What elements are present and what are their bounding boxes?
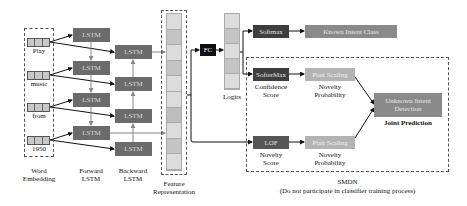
backward-lstm-cell: LSTM [115,45,152,59]
backward-lstm-cell: LSTM [115,109,152,123]
vector-cell [225,14,239,29]
vector-cell [167,14,181,30]
vector-cell [167,139,181,155]
vector-cell [167,30,181,46]
feature-representation-label: FeatureRepresentation [144,180,204,196]
confidence-score-label: ConfidenceScore [246,83,296,99]
forward-lstm-cell: LSTM [73,28,110,42]
embedding-vector [27,38,50,47]
known-intent-class-box: Known Intent Class [305,25,397,38]
logits-vector [224,13,240,90]
platt-scaling-top-box: Platt Scaling [305,68,355,81]
vector-cell [167,154,181,170]
vector-cell [167,45,181,61]
vector-cell [225,29,239,44]
smdn-subtitle: (Do not participate in classifier traini… [246,187,449,195]
forward-lstm-cell: LSTM [73,61,110,75]
forward-lstm-cell: LSTM [73,126,110,140]
word-label: music [24,80,54,88]
vector-cell [167,108,181,124]
novelty-probability-bottom-label: NoveltyProbability [305,151,355,167]
fc-layer: FC [200,44,216,56]
joint-prediction-label: Joint Prediction [374,119,442,127]
embedding-vector [27,136,50,145]
vector-cell [225,74,239,89]
vector-cell [225,59,239,74]
backward-lstm-cell: LSTM [115,77,152,91]
novelty-score-label: NoveltyScore [246,151,296,167]
backward-lstm-cell: LSTM [115,142,152,156]
embedding-vector [27,71,50,80]
word-label: from [24,112,54,120]
vector-cell [167,61,181,77]
word-label: 1950 [24,145,54,153]
vector-cell [167,92,181,108]
softmax-box: Softmax [253,25,289,38]
novelty-probability-top-label: NoveltyProbability [305,83,355,99]
feature-vector [166,13,182,171]
vector-cell [167,123,181,139]
vector-cell [225,44,239,59]
softermax-box: SofterMax [253,68,289,81]
lof-box: LOF [253,136,289,149]
smdn-title: SMDN [246,178,449,186]
logits-label: Logits [217,93,247,101]
forward-lstm-cell: LSTM [73,93,110,107]
bilstm-smdn-diagram: Play music from 1950 WordEmbedding LSTM … [0,0,467,206]
platt-scaling-bottom-box: Platt Scaling [305,136,355,149]
embedding-vector [27,103,50,112]
unknown-intent-detection-box: Unknown IntentDetection [374,93,442,117]
vector-cell [167,76,181,92]
word-label: Play [24,47,54,55]
word-embedding-label: WordEmbedding [14,167,64,183]
